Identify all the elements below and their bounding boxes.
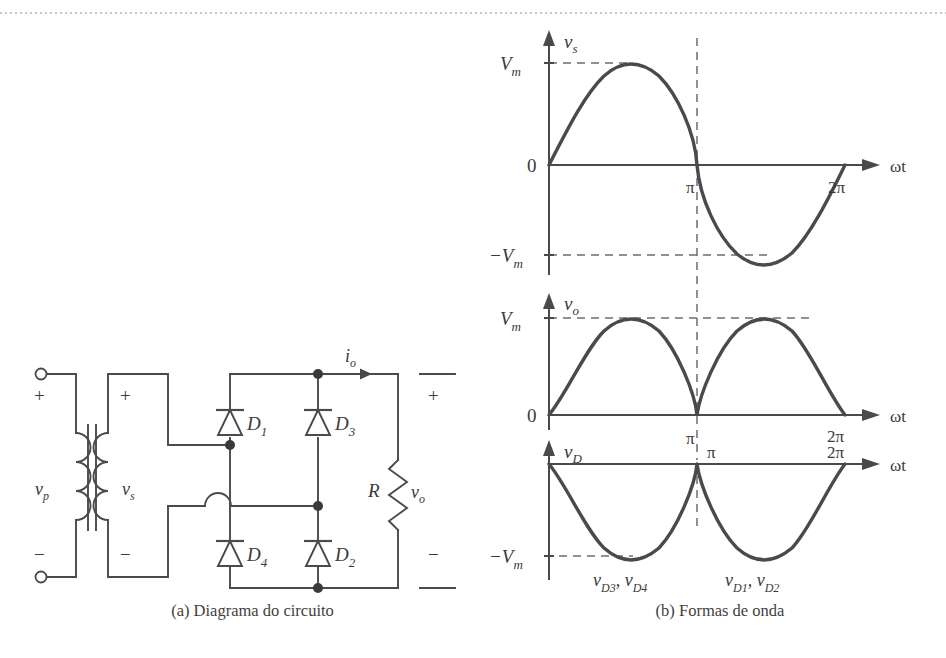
vs-xaxis-label: ωt [890,157,906,176]
vd12-curve-label: vD1, vD2 [725,570,779,595]
diode-d2 [304,541,332,566]
primary-plus-label: + [34,385,45,406]
primary-terminal-bottom-icon [36,572,47,583]
node-dot-mid-left [225,440,235,450]
secondary-plus-label: + [120,385,131,406]
caption-circuit: (a) Diagrama do circuito [65,601,440,621]
node-dot-mid-right [313,501,323,511]
vd-axis-label: vD [564,441,582,466]
vo-axis-label: vo [564,293,579,318]
vd34-curve-label: vD3, vD4 [593,570,647,595]
vd-x-axis-arrowhead [862,458,880,470]
diode-label-d4: D4 [246,544,268,570]
diode-label-d1: D1 [246,413,267,439]
vs-ytick-vm-label: Vm [500,53,521,79]
node-dot-top [313,369,323,379]
vo-ytick-zero-label: 0 [527,405,537,426]
load-resistor-symbol [389,460,407,530]
vo-xaxis-label: ωt [890,407,906,426]
vd-xtick-pi-label: π [707,443,716,462]
secondary-lead-bottom [108,506,205,577]
resistor-label: R [367,480,380,501]
secondary-minus-label: − [120,544,131,565]
vs-ytick-zero-label: 0 [527,155,537,176]
vd-y-axis-arrowhead [543,440,555,456]
output-minus-label: − [428,544,439,565]
diode-d1 [216,410,244,435]
circuit-diagram: + − + − + − vp vs vo R io D1 D3 D4 D2 [0,10,470,610]
vd-ytick-neg-vm-label: −Vm [489,546,523,572]
vs-xtick-pi-label: π [686,178,695,197]
primary-voltage-label: vp [35,479,49,503]
diode-label-d3: D3 [334,413,356,439]
primary-lead-top [47,374,76,433]
vs-y-axis-arrowhead [543,30,555,46]
vo-x-axis-arrowhead [862,409,880,421]
primary-minus-label: − [34,544,45,565]
output-plus-label: + [428,385,439,406]
vs-ytick-neg-vm-label: −Vm [489,245,523,271]
figure-root: + − + − + − vp vs vo R io D1 D3 D4 D2 [0,0,946,658]
output-voltage-label: vo [411,482,425,506]
vs-xtick-2pi-label: 2π [828,178,846,197]
wire-hop [205,493,231,506]
vs-axis-label: vs [564,31,578,56]
output-current-arrow-head [360,369,372,380]
vo-ytick-vm-label: Vm [500,308,521,334]
waveform-panel: Vm 0 −Vm vs π 2π ωt Vm 0 [470,10,946,610]
vo-y-axis-arrowhead [543,293,555,309]
vo-xtick-pi-label: π [686,429,695,448]
primary-lead-bottom [47,520,76,577]
vs-x-axis-arrowhead [862,159,880,171]
vd-xaxis-label: ωt [890,456,906,475]
diode-d3 [304,410,332,435]
diode-label-d2: D2 [334,544,356,570]
chart-vd: −Vm vD π 2π ωt vD3, vD4 vD1, vD2 [489,440,906,595]
caption-waveforms: (b) Formas de onda [560,601,880,621]
node-dot-bottom [313,583,323,593]
primary-terminal-top-icon [36,369,47,380]
diode-d4 [216,541,244,566]
vd-xtick-2pi-label: 2π [827,443,845,462]
chart-vo: Vm 0 vo π 2π ωt [500,293,906,448]
output-current-label: io [345,346,356,370]
secondary-voltage-label: vs [122,479,135,503]
